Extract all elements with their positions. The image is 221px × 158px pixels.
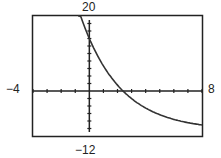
ymin-label: −12: [75, 144, 95, 156]
plot-area: [0, 0, 221, 158]
xmax-label: 8: [208, 83, 215, 95]
axes: [33, 20, 202, 132]
data-curve: [78, 16, 202, 125]
viewing-window-frame: [33, 16, 203, 137]
ymax-label: 20: [82, 1, 95, 13]
xmin-label: −4: [6, 83, 20, 95]
